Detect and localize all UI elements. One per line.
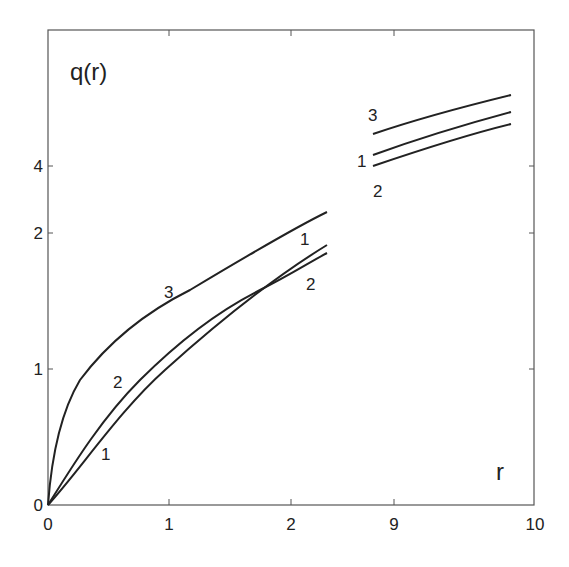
curve-label-3-left: 3 — [164, 283, 173, 302]
curve-label-3-right: 3 — [368, 106, 377, 125]
x-tick-10: 10 — [526, 515, 545, 534]
x-tick-1: 1 — [164, 515, 173, 534]
x-axis-title: r — [496, 458, 504, 485]
x-tick-9: 9 — [389, 515, 398, 534]
y-axis-title: q(r) — [70, 58, 107, 85]
x-tick-0: 0 — [43, 515, 52, 534]
curve-3-left — [48, 212, 327, 505]
curve-label-2-mid: 2 — [306, 275, 315, 294]
y-tick-2: 2 — [34, 224, 43, 243]
curve-label-2-left: 2 — [113, 373, 122, 392]
curve-label-1-mid: 1 — [300, 230, 309, 249]
curve-1-right — [373, 112, 511, 155]
chart: 0 1 2 9 10 0 1 2 4 q(r) r 3 2 1 1 2 3 1 … — [0, 0, 569, 567]
curve-2-right — [373, 124, 511, 166]
curve-label-1-left: 1 — [101, 445, 110, 464]
curve-label-1-right: 1 — [357, 152, 366, 171]
curves-left-segment — [48, 212, 327, 505]
curve-3-right — [373, 95, 511, 134]
curves-right-segment — [373, 95, 511, 166]
x-ticks — [169, 30, 394, 505]
y-tick-1: 1 — [34, 360, 43, 379]
x-tick-2: 2 — [286, 515, 295, 534]
curve-label-2-right: 2 — [373, 182, 382, 201]
y-tick-0: 0 — [34, 496, 43, 515]
y-tick-4: 4 — [34, 157, 43, 176]
curve-1-left — [48, 245, 327, 505]
